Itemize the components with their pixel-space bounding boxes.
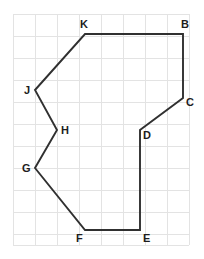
vertex-label-e: E <box>143 233 150 244</box>
vertex-label-j: J <box>24 85 30 96</box>
vertex-label-k: K <box>80 19 88 30</box>
vertex-label-f: F <box>76 233 83 244</box>
grid-lines <box>13 14 190 246</box>
vertex-label-b: B <box>181 19 189 30</box>
polygon-grid-figure <box>0 0 204 259</box>
figure-container: BCDEFGHJK <box>0 0 204 259</box>
vertex-label-c: C <box>186 97 194 108</box>
vertex-label-g: G <box>22 163 31 174</box>
vertex-label-d: D <box>143 130 151 141</box>
vertex-label-h: H <box>61 125 69 136</box>
